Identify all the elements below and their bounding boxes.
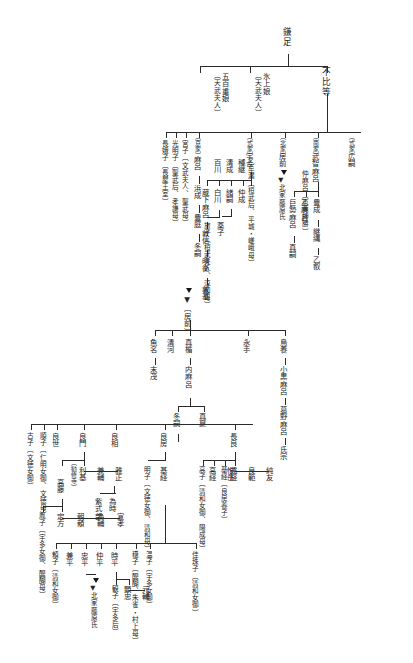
node-nagate: 永手 <box>242 338 250 353</box>
node-nakamaro: 仲麻呂〔恵美押勝〕 <box>300 170 307 235</box>
node-tsugunawa: 継縄 <box>312 227 320 242</box>
node-tadahira: 忠平 <box>80 551 88 566</box>
node-nagara: 長良 <box>229 432 237 447</box>
line-otsugu-down <box>231 209 232 216</box>
node-nakahira: 仲平 <box>95 551 103 566</box>
node-oguromaro: 小黒麻呂 <box>279 365 287 395</box>
line-tokihira-children-bar <box>116 579 130 580</box>
line-kamatari-down <box>288 54 289 66</box>
line-yoshikado-down <box>84 452 85 460</box>
node-yoshikado: 良門 <box>78 432 86 447</box>
line-yoshimi-stub <box>116 424 117 430</box>
node-otsugu2-kanmu: 乙牟漏〔桓武后、平城・嵯峨母〕 <box>246 158 253 266</box>
line-toyonari-stub <box>318 191 319 197</box>
line-mototsune-down <box>165 505 166 513</box>
node-yoriko: 頼子〔清和女御〕 <box>50 551 57 609</box>
line-toyonari-tsugunawa <box>318 220 319 227</box>
node-yoshifusa: 良房 <box>159 432 167 447</box>
node-inshi: 胤子〔宇多女御、醍醐母〕 <box>37 512 44 598</box>
line-komyoshi-stub <box>176 132 177 138</box>
line-takafuji-stub <box>62 460 63 466</box>
line-otsugu-children-bar <box>222 216 232 217</box>
node-tabiko: 旅子〔桓武夫人、淳和母〕 <box>202 222 209 308</box>
node-ujimune: 氏宗 <box>279 445 287 460</box>
line-yoshifusa-down <box>165 452 166 460</box>
line-tsugunawa-otsugu <box>318 248 319 255</box>
node-mototsune-adopted: 基経〔良房養子〕 <box>219 466 226 524</box>
line-momokawa-down <box>219 210 220 217</box>
hokke-fujiwara-marker-icon <box>93 578 99 583</box>
node-asayori: 朝頼 <box>76 512 84 527</box>
node-otsugu-nanke: 乙叡 <box>312 255 320 270</box>
line-toyotsugu-fuyutsugu <box>199 234 200 242</box>
line-kashuko-stub <box>196 543 197 549</box>
hokke-marker-icon <box>281 170 287 175</box>
node-yoshinori: 良範 <box>247 466 255 481</box>
line-kusumaro-stub <box>207 180 208 186</box>
node-kamatari: 鎌足 <box>281 27 290 47</box>
line-yoriko-stub <box>56 543 57 549</box>
line-uonona-suemichi <box>155 358 156 365</box>
node-kosemaro: 巨勢麻呂 <box>288 198 296 228</box>
line-matate-stub <box>190 330 191 336</box>
line-kiyokawa-stub <box>172 330 173 336</box>
node-yasuko: 穏子〔醍醐、朱雀・村上母〕 <box>130 551 137 645</box>
node-nagaue-no-iratsume: 氷上娘 <box>262 72 270 94</box>
line-maro-hamanari <box>199 176 200 184</box>
line-tookitsune-chain <box>235 471 269 472</box>
line-onshi-stub <box>150 543 151 549</box>
line-yasuko-stub <box>136 543 137 549</box>
node-mototsune: 基経 <box>159 466 167 481</box>
line-tokihira-down <box>116 572 117 579</box>
node-tanetsugu: 種継 <box>237 158 245 173</box>
line-yoshikado-stub <box>84 424 85 430</box>
node-maro: 麻呂 <box>193 155 201 170</box>
node-onshi: 温子〔宇多女御〕 <box>144 551 151 609</box>
line-fuhito-down <box>327 94 328 132</box>
node-tametoki: 為時 <box>108 497 116 512</box>
node-akirakeiko: 明子〔文徳女御、清和母〕 <box>142 466 149 552</box>
node-nakanari: 仲成 <box>237 188 245 203</box>
line-uonona-stub <box>155 330 156 336</box>
node-ioe-no-iratsume: 五百重娘 <box>221 72 229 102</box>
line-yoshifusa-stub <box>165 424 166 430</box>
line-furuko-stub <box>31 424 32 430</box>
line-kosemaro-tsugutada <box>294 236 295 243</box>
line-ioe-stub <box>200 66 201 73</box>
node-nagayoshi: 良世 <box>51 432 59 447</box>
line-fuyutsugu-children-bar <box>31 424 253 425</box>
node-toritaka: 鳥養 <box>279 338 287 353</box>
line-momokawa-stub <box>219 180 220 186</box>
line-takafuji-down <box>62 499 63 506</box>
line-uchimaro-down <box>190 398 191 406</box>
node-toyonari: 豊成 <box>312 198 320 213</box>
line-miyako-stub <box>186 132 187 138</box>
line-nagako-stub <box>166 132 167 138</box>
line-fusasaki2-down <box>190 320 191 330</box>
line-muchimaro-down <box>318 182 319 191</box>
line-nagara-down <box>235 452 236 460</box>
line-nagaue-stub <box>250 66 251 73</box>
node-fuyutsugu-kyoke: 冬嗣 <box>193 242 201 257</box>
line-tadatsugu-stub <box>243 180 244 186</box>
line-takafuji-children-bar <box>43 506 63 507</box>
line-yoshifusa-children-bar <box>148 460 166 461</box>
fujiwara-genealogy-chart: 鎌足 五百重娘 〔天武夫人〕 氷上娘 〔天武夫人〕 不比等 長娥子〔長屋王室〕 … <box>0 0 413 663</box>
node-kanshuji-tag: 〔勧修寺〕 <box>70 460 76 491</box>
node-miyako: 宮子〔文武夫人、聖武母〕 <box>180 140 187 226</box>
node-furuko: 古子〔文徳女御〕 <box>25 432 32 490</box>
node-tokihira: 時平 <box>110 551 118 566</box>
node-kiyonari: 清成 <box>225 158 233 173</box>
node-sumitomo: 純友 <box>265 466 273 481</box>
node-nagako: 長娥子〔長屋王室〕 <box>160 140 167 205</box>
node-hokke-fujiwara-label: ▼北家藤原氏 <box>89 584 96 628</box>
node-nagaue-note: 〔天武夫人〕 <box>253 72 260 116</box>
line-tadahira-stub <box>86 543 87 549</box>
node-yoshimi: 良相 <box>110 432 118 447</box>
node-toyotsugu: 豊庭 <box>193 213 201 228</box>
line-sadakata-chain <box>62 518 120 519</box>
line-toritaka-oguromaro <box>285 358 286 365</box>
node-koreoka: 惟岳 <box>226 466 234 481</box>
line-toshimoto-chain <box>84 471 118 472</box>
line-nagara-stub <box>235 424 236 430</box>
